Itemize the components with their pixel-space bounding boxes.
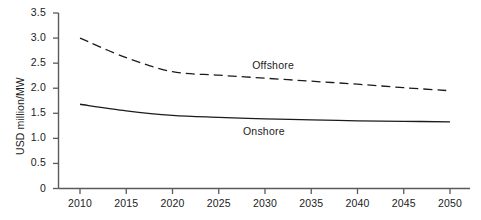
y-axis-tick-label: 2.0 <box>12 81 46 93</box>
y-axis-ticks <box>53 13 59 189</box>
x-axis-tick-label: 2030 <box>243 197 287 209</box>
y-axis-tick-label: 0 <box>12 182 46 194</box>
x-axis-tick-label: 2040 <box>336 197 380 209</box>
y-axis-tick-label: 1.0 <box>12 131 46 143</box>
series-label-onshore: Onshore <box>243 125 285 137</box>
x-axis-tick-label: 2050 <box>428 197 472 209</box>
y-axis-tick-label: 3.5 <box>12 6 46 18</box>
y-axis-tick-label: 1.5 <box>12 106 46 118</box>
chart-container: USD million/MW 00.51.01.52.02.53.03.5201… <box>0 0 481 220</box>
y-axis-tick-label: 0.5 <box>12 156 46 168</box>
x-axis-ticks <box>80 189 450 195</box>
chart-plot-area <box>0 0 481 220</box>
x-axis-tick-label: 2035 <box>289 197 333 209</box>
y-axis-tick-label: 3.0 <box>12 31 46 43</box>
x-axis-tick-label: 2010 <box>58 197 102 209</box>
chart-series-group <box>80 38 450 122</box>
x-axis-tick-label: 2015 <box>104 197 148 209</box>
series-line-onshore <box>80 104 450 122</box>
x-axis-tick-label: 2045 <box>382 197 426 209</box>
series-label-offshore: Offshore <box>252 59 294 71</box>
x-axis-tick-label: 2020 <box>151 197 195 209</box>
y-axis-tick-label: 2.5 <box>12 56 46 68</box>
x-axis-tick-label: 2025 <box>197 197 241 209</box>
